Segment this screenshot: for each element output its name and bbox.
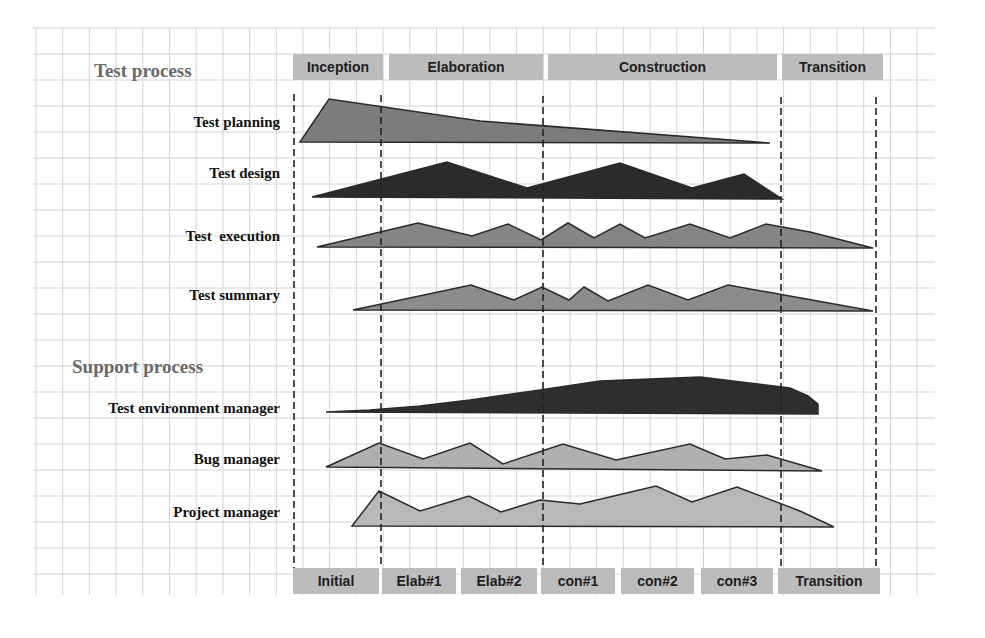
row-label-test-summary: Test summary	[189, 287, 280, 304]
activity-shape-test-planning	[300, 99, 770, 143]
row-label-bug-manager: Bug manager	[194, 451, 280, 468]
row-label-test-environment-manager: Test environment manager	[108, 400, 280, 417]
row-label-test-design: Test design	[209, 165, 280, 182]
phase-transition: Transition	[782, 54, 883, 80]
row-label-test-execution: Test execution	[186, 228, 280, 245]
phase-inception: Inception	[293, 54, 383, 80]
iteration-con-1: con#1	[541, 568, 615, 594]
row-label-project-manager: Project manager	[173, 504, 280, 521]
section-title-support-process: Support process	[72, 356, 203, 378]
activity-shape-test-execution	[317, 223, 873, 248]
phase-construction: Construction	[548, 54, 777, 80]
activity-shape-test-design	[312, 162, 782, 199]
iteration-elab-2: Elab#2	[461, 568, 537, 594]
row-label-test-planning: Test planning	[193, 114, 280, 131]
activity-shape-project-manager	[352, 486, 834, 527]
activity-shape-test-summary	[353, 285, 873, 311]
iteration-initial: Initial	[293, 568, 379, 594]
iteration-elab-1: Elab#1	[382, 568, 456, 594]
activity-shape-bug-manager	[326, 443, 822, 471]
phase-elaboration: Elaboration	[389, 54, 543, 80]
iteration-con-3: con#3	[701, 568, 773, 594]
activity-shape-test-environment-manager	[326, 377, 818, 414]
iteration-transition: Transition	[778, 568, 880, 594]
activity-shapes	[0, 0, 985, 638]
section-title-test-process: Test process	[94, 60, 192, 82]
iteration-con-2: con#2	[621, 568, 694, 594]
